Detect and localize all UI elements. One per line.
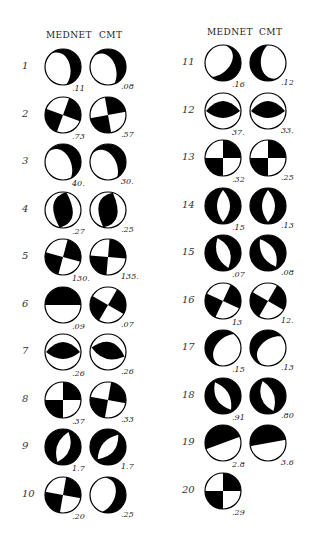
event-number: 20 [182, 484, 195, 495]
mednet-value: 13 [232, 318, 242, 327]
cmt-value: .25 [121, 510, 134, 519]
event-number: 17 [182, 341, 195, 352]
mednet-value: 2.8 [232, 460, 245, 469]
event-number: 5 [22, 250, 28, 261]
cmt-value: 30. [121, 177, 134, 186]
mednet-value: .26 [72, 369, 85, 378]
left-header-cmt: CMT [99, 30, 122, 40]
event-number: 12 [182, 104, 195, 115]
event-number: 10 [22, 488, 35, 499]
cmt-value: .12 [281, 78, 294, 87]
mednet-value: 37. [232, 128, 245, 137]
mednet-value: .07 [232, 270, 245, 279]
event-number: 13 [182, 151, 195, 162]
mednet-value: .11 [72, 84, 85, 93]
cmt-value: .08 [121, 82, 134, 91]
cmt-value: .57 [121, 130, 134, 139]
mednet-value: .27 [72, 227, 85, 236]
mednet-value: 40. [72, 179, 85, 188]
event-number: 9 [22, 440, 28, 451]
mednet-value: .32 [232, 175, 245, 184]
mednet-value: .29 [232, 508, 245, 517]
event-number: 2 [22, 108, 28, 119]
cmt-value: 1.7 [121, 462, 134, 471]
event-number: 11 [182, 56, 195, 67]
cmt-value: .80 [281, 411, 294, 420]
event-number: 15 [182, 246, 195, 257]
event-number: 18 [182, 389, 195, 400]
right-header-cmt: CMT [259, 27, 282, 37]
cmt-value: .33 [121, 415, 134, 424]
cmt-value: .08 [281, 268, 294, 277]
cmt-value: .25 [281, 173, 294, 182]
event-number: 19 [182, 436, 195, 447]
event-number: 8 [22, 393, 28, 404]
event-number: 1 [22, 60, 28, 71]
cmt-value: .26 [121, 367, 134, 376]
mednet-value: .16 [232, 80, 245, 89]
cmt-value: 135. [121, 272, 139, 281]
event-number: 6 [22, 298, 28, 309]
mednet-value: .37 [72, 417, 85, 426]
right-header-mednet: MEDNET [207, 27, 253, 37]
cmt-value: 33. [281, 126, 294, 135]
mednet-value: 130. [72, 274, 90, 283]
mednet-value: .15 [232, 365, 245, 374]
mednet-value: .73 [72, 132, 85, 141]
event-number: 4 [22, 203, 28, 214]
cmt-value: .13 [281, 221, 294, 230]
mednet-value: .15 [232, 223, 245, 232]
cmt-value: .07 [121, 320, 134, 329]
cmt-value: 3.6 [281, 458, 294, 467]
cmt-value: .13 [281, 363, 294, 372]
mednet-value: 1.7 [72, 464, 85, 473]
event-number: 7 [22, 345, 28, 356]
mednet-value: .91 [232, 413, 245, 422]
cmt-value: .25 [121, 225, 134, 234]
left-header-mednet: MEDNET [46, 30, 92, 40]
cmt-value: 12. [281, 316, 294, 325]
event-number: 14 [182, 199, 195, 210]
mednet-value: .20 [72, 512, 85, 521]
event-number: 16 [182, 294, 195, 305]
mednet-value: .09 [72, 322, 85, 331]
event-number: 3 [22, 155, 28, 166]
